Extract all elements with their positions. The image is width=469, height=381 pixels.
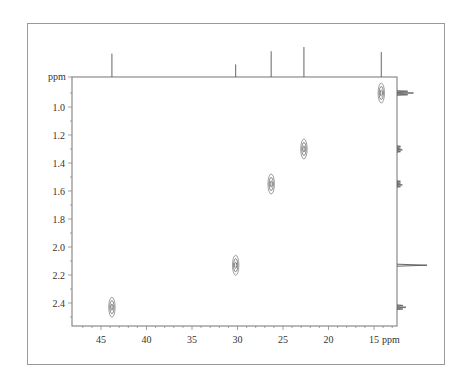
- x-axis: 45403530252015: [83, 326, 392, 345]
- contour-inner: [303, 146, 305, 152]
- y-tick-label: 2.4: [53, 298, 66, 309]
- y-axis-unit-label: ppm: [48, 71, 66, 82]
- y-tick-label: 1.0: [53, 102, 66, 113]
- y-tick-label: 1.6: [53, 186, 66, 197]
- projection-peak: [397, 92, 414, 93]
- contour-inner: [380, 90, 382, 96]
- top-projection-spectrum: [112, 47, 381, 77]
- projection-peak: [397, 264, 427, 266]
- plot-area: [72, 77, 397, 326]
- cross-peaks: [109, 83, 385, 317]
- y-tick-label: 1.8: [53, 214, 66, 225]
- cross-peak: [232, 255, 238, 275]
- projection-peak: [397, 184, 402, 185]
- y-axis: 1.01.21.41.61.82.02.22.4: [53, 77, 73, 317]
- x-tick-label: 45: [96, 334, 106, 345]
- cross-peak: [301, 139, 307, 159]
- contour-inner: [270, 181, 272, 187]
- x-tick-label: 20: [324, 334, 334, 345]
- projection-peak: [397, 91, 408, 92]
- projection-peak: [397, 307, 406, 308]
- x-tick-label: 40: [142, 334, 152, 345]
- projection-peak: [397, 308, 403, 309]
- y-tick-label: 1.2: [53, 130, 66, 141]
- right-projection-spectrum: [397, 91, 427, 310]
- y-tick-label: 2.0: [53, 242, 66, 253]
- projection-peak: [397, 149, 402, 150]
- y-tick-label: 1.4: [53, 158, 66, 169]
- x-tick-label: 30: [233, 334, 243, 345]
- x-tick-label: 25: [278, 334, 288, 345]
- x-tick-label: 35: [187, 334, 197, 345]
- x-tick-label: 15: [369, 334, 379, 345]
- y-tick-label: 2.2: [53, 270, 66, 281]
- cross-peak: [378, 83, 384, 103]
- cross-peak: [268, 174, 274, 194]
- contour-inner: [111, 304, 113, 310]
- hsqc-chart: 45403530252015 1.01.21.41.61.82.02.22.4 …: [0, 0, 469, 381]
- contour-inner: [235, 262, 237, 268]
- projection-peak: [397, 94, 408, 95]
- projection-peak: [397, 305, 403, 306]
- plot-border: [72, 77, 397, 326]
- x-axis-unit-label: ppm: [382, 334, 400, 345]
- cross-peak: [109, 297, 115, 317]
